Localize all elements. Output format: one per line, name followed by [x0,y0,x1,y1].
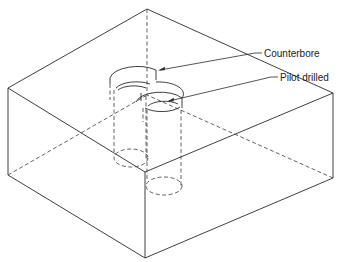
right-counterbore-back-rim [156,82,183,98]
top-front-right-edge [145,93,333,172]
counterbore-label: Counterbore [264,48,320,59]
counterbore-arrow-icon [158,67,165,71]
right-pilot-rim [148,101,178,106]
left-hole [110,67,156,167]
hidden-edges [8,9,333,178]
bottom-front-left-edge [8,175,145,258]
bottom-front-right-edge [145,178,333,258]
top-front-left-edge [8,88,145,172]
top-back-left-edge [8,9,147,88]
hidden-bottom-back-right-edge [147,95,333,178]
block-diagram: Counterbore Pilot drilled [0,0,340,262]
right-counterbore-front-floor [145,107,180,112]
pilot-drilled-leader-line [169,77,278,101]
pilot-drilled-arrow-icon [167,98,174,102]
hidden-bottom-back-left-edge [8,95,147,175]
block-outline [8,9,333,258]
left-counterbore-floor [116,82,150,88]
left-hole-bottom [114,149,148,167]
left-counterbore-rim [110,67,156,78]
right-hole-bottom [146,177,182,195]
counterbore-leader-line [160,53,262,70]
left-pilot-rim [118,86,146,90]
pilot-drilled-label: Pilot drilled [280,72,329,83]
